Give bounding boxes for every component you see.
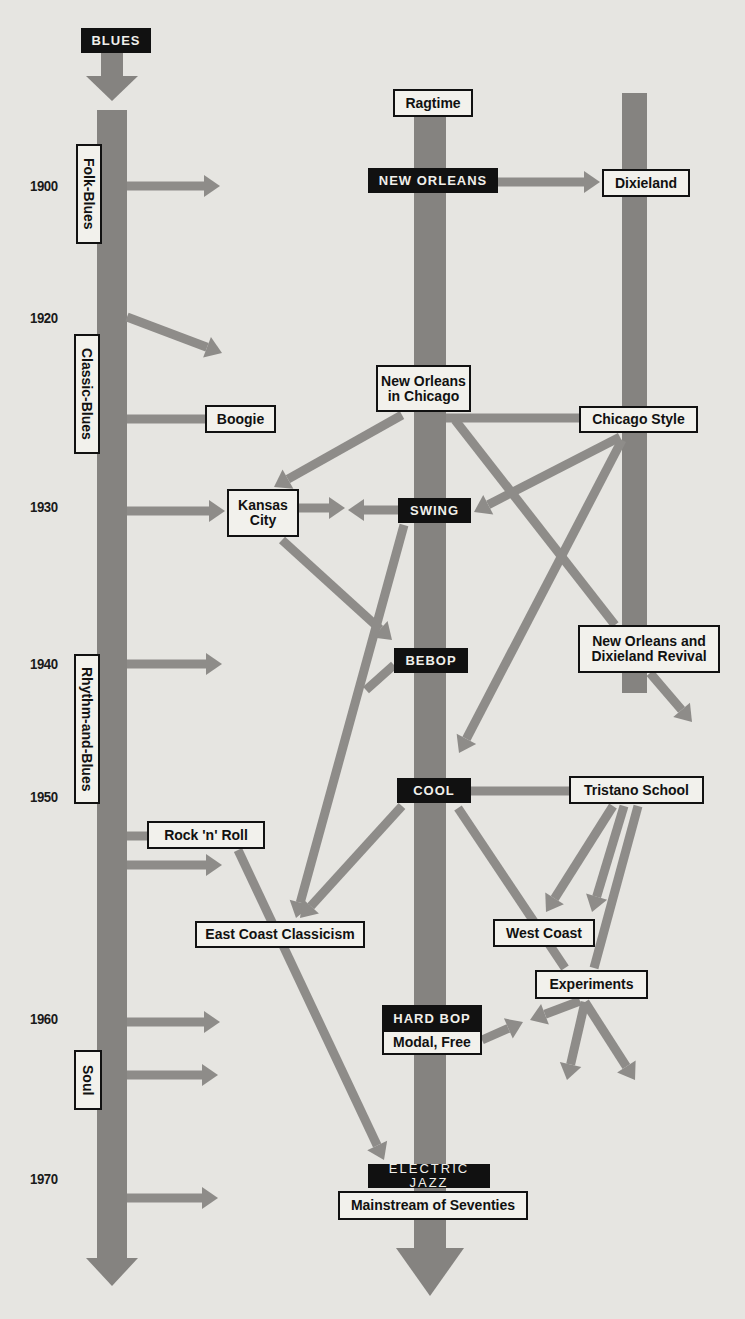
style-new-orleans-dixieland-revival: New Orleans and Dixieland Revival (578, 625, 720, 673)
year-label: 1930 (30, 498, 58, 515)
style-hard-bop: HARD BOP (382, 1005, 482, 1032)
connection-new-orleans-in-chicago-to-kansas-city (288, 415, 402, 479)
connection-blues-to-jazz (127, 317, 207, 347)
style-new-orleans-in-chicago: New Orleans in Chicago (376, 365, 471, 412)
blues-era-soul: Soul (74, 1050, 102, 1110)
blues-era-label: Rhythm-and-Blues (80, 667, 95, 791)
arrowhead-icon (329, 497, 345, 519)
year-label: 1900 (30, 177, 58, 194)
blues-era-label: Classic-Blues (80, 348, 95, 440)
connection-rock-n-roll-to-electric-jazz (238, 850, 377, 1146)
style-dixieland: Dixieland (602, 169, 690, 197)
year-label: 1940 (30, 655, 58, 672)
year-label: 1960 (30, 1010, 58, 1027)
connection-modal-free-to-experiments (482, 1028, 508, 1040)
blues-era-folk-blues: Folk-Blues (76, 144, 102, 244)
blues-era-rhythm-and-blues: Rhythm-and-Blues (74, 654, 100, 804)
arrowhead-icon (202, 1187, 218, 1209)
style-mainstream-seventies: Mainstream of Seventies (338, 1191, 528, 1220)
style-bebop: BEBOP (394, 648, 468, 673)
connection-experiments-to-hard-bop (545, 1001, 580, 1014)
arrowhead-icon (202, 1064, 218, 1086)
year-label: 1950 (30, 788, 58, 805)
connection-revival-to-beyond (650, 673, 682, 710)
arrowhead-icon (584, 171, 600, 193)
year-label: 1920 (30, 309, 58, 326)
blues-era-classic-blues: Classic-Blues (74, 334, 100, 454)
arrowhead-icon (560, 1062, 581, 1080)
connection-kansas-city-to-bebop (282, 540, 380, 629)
blues-era-label: Soul (81, 1065, 96, 1095)
connection-experiments-to-beyond-left (571, 1002, 585, 1064)
style-rock-n-roll: Rock 'n' Roll (147, 821, 265, 849)
style-experiments: Experiments (535, 970, 648, 999)
style-west-coast: West Coast (493, 919, 595, 947)
style-east-coast-classicism: East Coast Classicism (195, 921, 365, 948)
blues-title: BLUES (81, 28, 151, 53)
year-label: 1970 (30, 1170, 58, 1187)
style-electric-jazz: ELECTRIC JAZZ (368, 1164, 490, 1188)
style-boogie: Boogie (205, 405, 276, 433)
arrowhead-icon (209, 500, 225, 522)
style-swing: SWING (398, 498, 471, 523)
style-kansas-city: Kansas City (227, 489, 299, 537)
blues-era-label: Folk-Blues (82, 158, 97, 230)
connection-swing-to-east-coast (300, 525, 404, 903)
connection-bebop-to-trunk-branch (366, 665, 394, 690)
style-new-orleans: NEW ORLEANS (368, 168, 498, 193)
style-ragtime: Ragtime (393, 89, 473, 117)
arrowhead-icon (204, 1011, 220, 1033)
style-tristano-school: Tristano School (569, 776, 704, 804)
arrowhead-icon (206, 653, 222, 675)
style-cool: COOL (397, 778, 471, 803)
arrowhead-icon (206, 854, 222, 876)
style-chicago-style: Chicago Style (579, 406, 698, 433)
style-modal-free: Modal, Free (382, 1030, 482, 1055)
arrowhead-icon (348, 499, 364, 521)
connection-experiments-to-beyond-right (585, 1002, 626, 1067)
jazz-history-diagram: BLUES 1900192019301940195019601970 Folk-… (0, 0, 745, 1319)
connection-chicago-style-to-cool (466, 440, 622, 739)
arrowhead-icon (204, 175, 220, 197)
